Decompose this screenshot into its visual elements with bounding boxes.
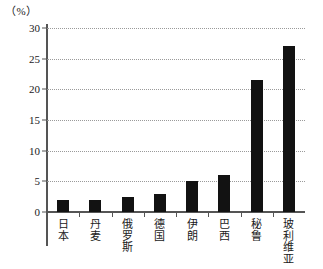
x-category-label: 德国: [153, 219, 166, 242]
y-tick-label: 10: [29, 145, 40, 157]
x-category-label: 巴西: [218, 219, 231, 242]
bar: [154, 194, 166, 212]
x-category-label: 秘鲁: [250, 219, 263, 242]
gridline: [47, 89, 305, 90]
x-tick-mark: [79, 212, 80, 217]
y-tick-label: 5: [35, 175, 41, 187]
bar: [122, 197, 134, 212]
gridline: [47, 181, 305, 182]
x-tick-mark: [176, 212, 177, 217]
gridline: [47, 28, 305, 29]
bar: [251, 80, 263, 212]
x-category-label: 玻利维亚: [282, 219, 295, 265]
x-category-label: 俄罗斯: [121, 219, 134, 254]
gridline: [47, 151, 305, 152]
bar: [218, 175, 230, 212]
x-tick-mark: [112, 212, 113, 217]
x-tick-mark: [241, 212, 242, 217]
bar-chart: （%） 051015202530 日本丹麦俄罗斯德国伊朗巴西秘鲁玻利维亚: [0, 0, 323, 269]
gridline: [47, 59, 305, 60]
y-tick-label: 30: [29, 22, 40, 34]
y-tick-label: 25: [29, 53, 40, 65]
bar: [57, 200, 69, 212]
x-category-label: 丹麦: [89, 219, 102, 242]
bar: [186, 181, 198, 212]
x-category-label: 伊朗: [186, 219, 199, 242]
bar: [89, 200, 101, 212]
x-tick-mark: [273, 212, 274, 217]
y-tick-label: 15: [29, 114, 40, 126]
y-tick-label: 0: [35, 206, 41, 218]
plot-area: [47, 28, 305, 212]
y-tick-label: 20: [29, 83, 40, 95]
gridline: [47, 120, 305, 121]
y-axis-ticks: 051015202530: [0, 0, 40, 269]
x-category-label: 日本: [57, 219, 70, 242]
x-tick-mark: [208, 212, 209, 217]
x-tick-mark: [144, 212, 145, 217]
bar: [283, 46, 295, 212]
